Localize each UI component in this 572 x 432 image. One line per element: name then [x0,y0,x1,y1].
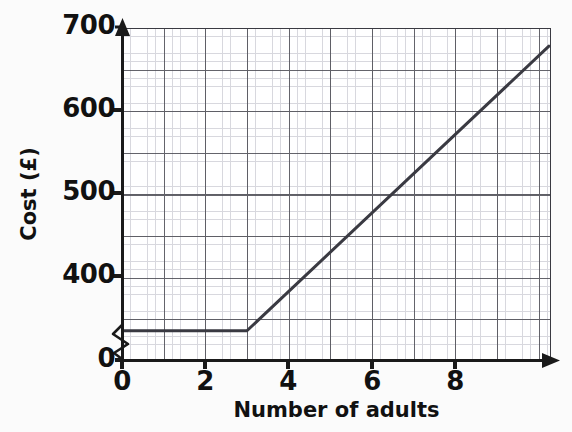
x-axis-title: Number of adults [122,398,551,422]
y-tick-label-700: 700 [62,10,115,40]
x-tick-label-4: 4 [268,366,308,396]
x-tick-label-0: 0 [102,366,142,396]
x-tick-label-8: 8 [435,366,475,396]
y-tick-label-600: 600 [62,93,115,123]
y-axis-title: Cost (£) [17,119,41,269]
cost-vs-adults-chart: 700 600 500 400 0 0 2 4 6 8 Cost (£) Num… [0,0,572,432]
x-tick-label-2: 2 [185,366,225,396]
y-tick-label-500: 500 [62,176,115,206]
y-tick-label-400: 400 [62,259,115,289]
axis-break-zigzag [113,325,128,359]
x-axis-arrowhead [542,353,560,368]
x-tick-label-6: 6 [352,366,392,396]
